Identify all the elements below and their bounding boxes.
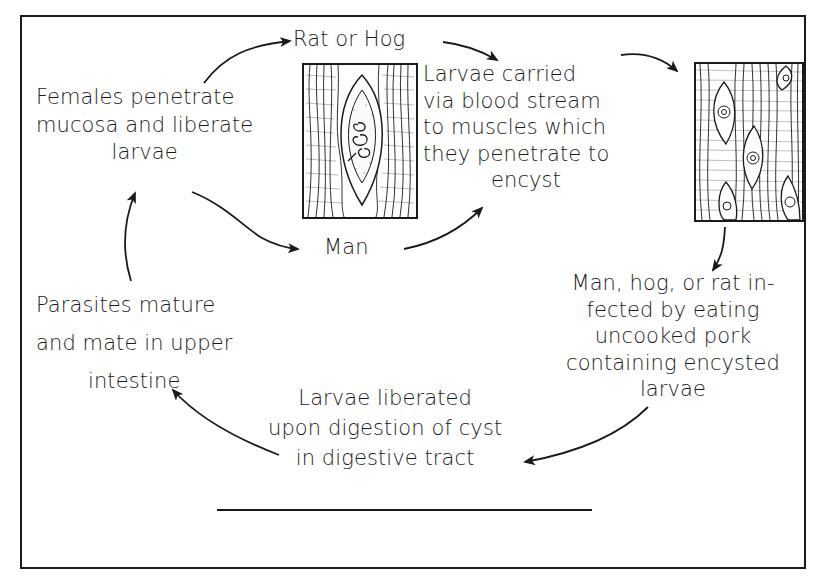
node-line: they penetrate to bbox=[423, 141, 609, 168]
node-line: Parasites mature bbox=[36, 286, 232, 324]
node-line: Man, hog, or rat in- bbox=[566, 270, 780, 297]
node-females-penetrate: Females penetrate mucosa and liberate la… bbox=[36, 84, 253, 167]
caption-rule bbox=[217, 509, 592, 511]
node-line: to muscles which bbox=[423, 114, 609, 141]
node-line: Larvae liberated bbox=[268, 383, 502, 413]
muscle-multiple-cysts-icon bbox=[696, 64, 802, 220]
node-line: Man bbox=[324, 234, 369, 262]
node-larvae-liberated: Larvae liberated upon digestion of cyst … bbox=[268, 383, 502, 473]
node-line: Larvae carried bbox=[423, 61, 609, 88]
node-line: Females penetrate bbox=[36, 84, 253, 112]
node-line: and mate in upper bbox=[36, 324, 232, 362]
node-parasites-mature: Parasites mature and mate in upper intes… bbox=[36, 286, 232, 400]
node-line: containing encysted bbox=[566, 350, 780, 377]
node-man: Man bbox=[324, 234, 369, 262]
node-line: Rat or Hog bbox=[293, 26, 405, 54]
cyst-single-illustration bbox=[302, 63, 418, 219]
node-line: mucosa and liberate bbox=[36, 112, 253, 140]
cyst-multiple-illustration bbox=[694, 62, 804, 222]
muscle-cyst-icon bbox=[304, 65, 416, 217]
node-line: upon digestion of cyst bbox=[268, 413, 502, 443]
node-line: larvae bbox=[566, 376, 780, 403]
node-line: via blood stream bbox=[423, 88, 609, 115]
node-line: in digestive tract bbox=[268, 443, 502, 473]
node-line: larvae bbox=[36, 139, 253, 167]
node-line: encyst bbox=[423, 167, 609, 194]
node-line: intestine bbox=[36, 362, 232, 400]
node-line: fected by eating bbox=[566, 297, 780, 324]
node-line: uncooked pork bbox=[566, 323, 780, 350]
node-rat-or-hog: Rat or Hog bbox=[293, 26, 405, 54]
node-man-hog-rat-infected: Man, hog, or rat in- fected by eating un… bbox=[566, 270, 780, 403]
node-larvae-carried: Larvae carried via blood stream to muscl… bbox=[423, 61, 609, 194]
